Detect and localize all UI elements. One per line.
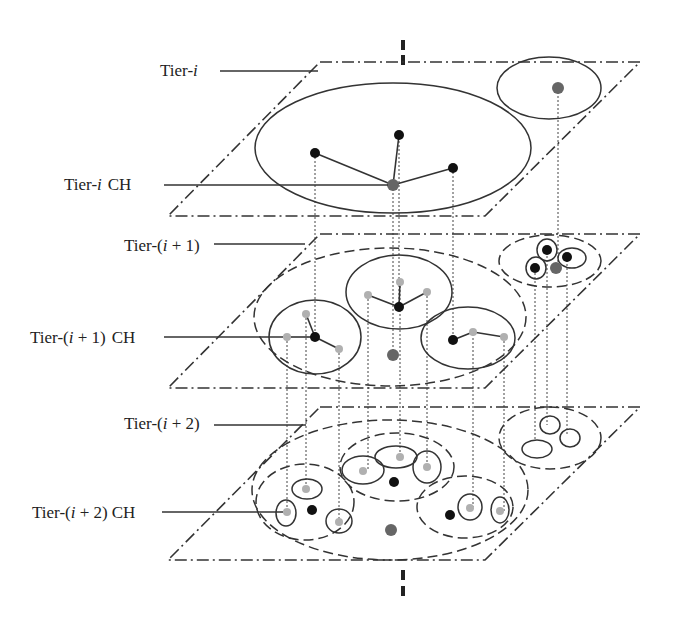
cluster-head-tier-i (552, 82, 564, 94)
svg-text:Tier-(i + 2): Tier-(i + 2) (124, 414, 200, 433)
label-tier-i1: Tier-(i + 1) (124, 236, 305, 255)
cluster-head (448, 335, 458, 345)
node-member (530, 263, 540, 273)
node-member (396, 453, 404, 461)
plane-tier-i1 (168, 234, 640, 388)
node-member (335, 518, 343, 526)
node-member (302, 485, 310, 493)
svg-text:Tier-i: Tier-i (160, 61, 198, 80)
svg-text:Tier-iCH: Tier-iCH (64, 175, 131, 194)
tier-cluster-diagram: Tier-i Tier-iCH Tier-(i + 1) Tier-(i + 1… (0, 0, 673, 623)
svg-text:Tier-(i + 1)CH: Tier-(i + 1)CH (30, 328, 135, 347)
cluster-head (445, 510, 455, 520)
cluster-head-tier-i (387, 179, 399, 191)
node-member (283, 508, 291, 516)
svg-text:Tier-(i + 1): Tier-(i + 1) (124, 236, 200, 255)
cluster-head (310, 332, 320, 342)
node-member (469, 328, 477, 336)
node-member (364, 291, 372, 299)
node-member (562, 252, 572, 262)
projection-lines (287, 88, 567, 522)
node-member (423, 463, 431, 471)
node-member (448, 163, 458, 173)
axis-marks (401, 40, 405, 596)
label-tier-i2-ch: Tier-(i + 2)CH (32, 503, 283, 522)
label-tier-i: Tier-i (160, 61, 318, 80)
label-tier-i1-ch: Tier-(i + 1)CH (30, 328, 283, 347)
plane-tier-i2 (168, 407, 640, 560)
node-member (396, 278, 404, 286)
node-member (335, 345, 343, 353)
cluster-head (307, 505, 317, 515)
node-member (466, 504, 474, 512)
node-member (310, 148, 320, 158)
label-tier-i-ch: Tier-iCH (64, 175, 388, 194)
label-tier-i2: Tier-(i + 2) (124, 414, 306, 433)
node-member (302, 310, 310, 318)
cluster-head (389, 477, 399, 487)
cluster-head-upper (550, 262, 562, 274)
node-member (500, 333, 508, 341)
cluster-head-upper (387, 349, 399, 361)
node-member (394, 130, 404, 140)
svg-text:Tier-(i + 2)CH: Tier-(i + 2)CH (32, 503, 135, 522)
cluster-head (394, 302, 404, 312)
node-member (359, 467, 367, 475)
cluster-head-upper (385, 524, 397, 536)
node-member (423, 288, 431, 296)
plane-tier-i (168, 57, 640, 216)
node-member (496, 507, 504, 515)
node-member (542, 245, 552, 255)
node-member (283, 333, 291, 341)
